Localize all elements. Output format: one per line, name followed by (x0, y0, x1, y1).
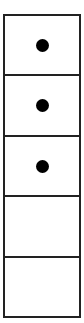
cell-4[interactable] (5, 197, 79, 257)
cell-5[interactable] (5, 258, 79, 316)
dot-marker-icon (36, 39, 49, 52)
vertical-cell-column (3, 14, 81, 318)
cell-2[interactable] (5, 76, 79, 136)
cell-1[interactable] (5, 16, 79, 76)
dot-marker-icon (36, 99, 49, 112)
cell-3[interactable] (5, 137, 79, 197)
dot-marker-icon (36, 160, 49, 173)
